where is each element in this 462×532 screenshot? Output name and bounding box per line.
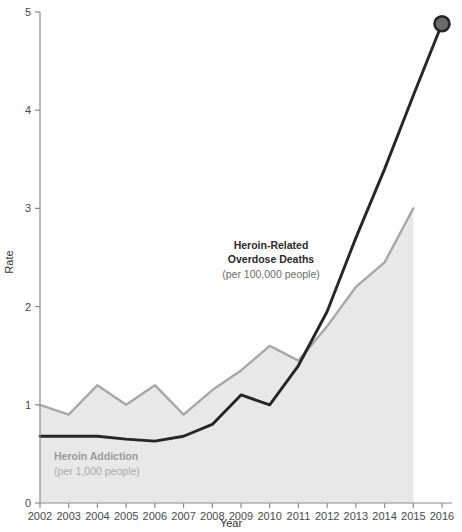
y-axis-title: Rate xyxy=(3,250,15,273)
x-tick-label-2013: 2013 xyxy=(344,510,368,522)
x-axis-title: Year xyxy=(220,517,243,529)
x-tick-label-2016: 2016 xyxy=(430,510,454,522)
x-tick-label-2004: 2004 xyxy=(85,510,109,522)
y-tick-label-2: 2 xyxy=(25,301,31,313)
y-tick-label-4: 4 xyxy=(25,104,31,116)
overdose-label-line3: (per 100,000 people) xyxy=(222,268,320,280)
x-tick-label-2005: 2005 xyxy=(114,510,138,522)
overdose-label-line1: Heroin-Related xyxy=(234,239,309,251)
y-tick-label-5: 5 xyxy=(25,6,31,18)
x-tick-label-2011: 2011 xyxy=(287,510,311,522)
x-tick-label-2012: 2012 xyxy=(315,510,339,522)
x-tick-label-2003: 2003 xyxy=(56,510,80,522)
chart-container: 012345 200220032004200520062007200820092… xyxy=(0,0,462,532)
x-tick-label-2010: 2010 xyxy=(257,510,281,522)
annotation-overdose-deaths: Heroin-Related Overdose Deaths (per 100,… xyxy=(222,239,320,280)
x-tick-label-2006: 2006 xyxy=(143,510,167,522)
x-tick-label-2002: 2002 xyxy=(28,510,52,522)
y-tick-label-1: 1 xyxy=(25,399,31,411)
x-tick-label-2007: 2007 xyxy=(171,510,195,522)
y-tick-label-0: 0 xyxy=(25,497,31,509)
line-chart: 012345 200220032004200520062007200820092… xyxy=(0,0,462,532)
overdose-label-line2: Overdose Deaths xyxy=(228,253,315,265)
addiction-label-line2: (per 1,000 people) xyxy=(54,465,140,477)
addiction-label-line1: Heroin Addiction xyxy=(54,450,138,462)
y-tick-label-3: 3 xyxy=(25,202,31,214)
endpoint-marker-2016 xyxy=(435,16,450,31)
x-tick-label-2014: 2014 xyxy=(372,510,396,522)
x-tick-label-2015: 2015 xyxy=(401,510,425,522)
